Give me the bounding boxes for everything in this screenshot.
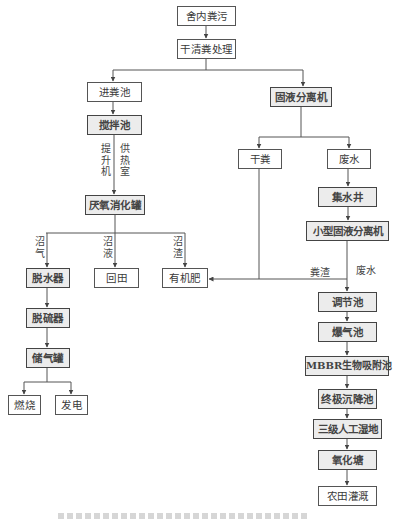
node-farmland-irrigation: 农田灌溉 bbox=[318, 486, 377, 506]
label-heating-room: 供热室 bbox=[119, 143, 130, 178]
label-biogas-slurry: 沼液 bbox=[102, 236, 113, 259]
node-desulfurizer: 脱硫器 bbox=[26, 308, 70, 328]
node-dehydrator: 脱水器 bbox=[26, 268, 70, 288]
label-manure-residue: 粪渣 bbox=[310, 267, 330, 278]
node-final-settling: 终极沉降池 bbox=[318, 389, 377, 409]
node-wetland: 三级人工湿地 bbox=[313, 419, 382, 439]
label-lift-machine: 提升机 bbox=[100, 143, 111, 178]
node-power-generation: 发电 bbox=[55, 395, 88, 415]
node-dry-cleaning: 干清粪处理 bbox=[177, 39, 236, 59]
node-organic-fertilizer: 有机肥 bbox=[162, 268, 208, 288]
node-manure-in-house: 舍内粪污 bbox=[177, 6, 236, 26]
label-wastewater: 废水 bbox=[356, 265, 376, 276]
connector-lines bbox=[0, 0, 405, 519]
figure-caption-cropped bbox=[58, 511, 308, 519]
label-biogas-residue: 沼渣 bbox=[172, 236, 183, 259]
node-gas-tank: 储气罐 bbox=[26, 348, 70, 368]
node-collection-well: 集水井 bbox=[318, 187, 377, 207]
label-biogas: 沼气 bbox=[34, 236, 45, 259]
node-wastewater: 废水 bbox=[327, 149, 371, 169]
node-small-separator: 小型固液分离机 bbox=[306, 221, 389, 241]
node-oxidation-pond: 氧化塘 bbox=[318, 450, 377, 470]
node-combustion: 燃烧 bbox=[8, 395, 41, 415]
node-dry-manure: 干粪 bbox=[238, 149, 282, 169]
node-stirring-tank: 搅拌池 bbox=[87, 115, 142, 135]
node-solid-liquid-separator: 固液分离机 bbox=[270, 87, 332, 107]
node-regulating-tank: 调节池 bbox=[318, 292, 377, 312]
node-aeration-tank: 爆气池 bbox=[318, 322, 377, 342]
node-return-field: 回田 bbox=[94, 268, 139, 288]
node-feed-pit: 进粪池 bbox=[87, 82, 142, 102]
node-mbbr-tank: MBBR生物吸附池 bbox=[305, 356, 389, 376]
node-anaerobic-digester: 厌氧消化罐 bbox=[85, 195, 145, 215]
